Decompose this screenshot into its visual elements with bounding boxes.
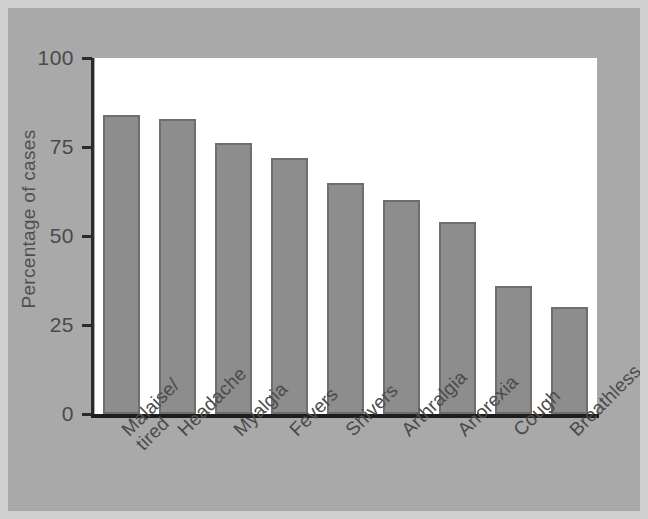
y-axis-tick	[82, 413, 92, 416]
y-axis-line	[91, 58, 94, 418]
bar	[103, 115, 140, 414]
y-axis-tick-label: 100	[14, 47, 74, 68]
y-axis-tick	[82, 324, 92, 327]
bar	[159, 119, 196, 414]
y-axis-tick-label: 0	[14, 403, 74, 424]
y-axis-tick	[82, 146, 92, 149]
bar	[271, 158, 308, 414]
y-axis-tick	[82, 57, 92, 60]
y-axis-tick	[82, 235, 92, 238]
chart-card: 0255075100 Percentage of cases Malaise/ …	[8, 8, 640, 511]
figure: 0255075100 Percentage of cases Malaise/ …	[0, 0, 648, 519]
y-axis-title: Percentage of cases	[18, 119, 40, 319]
bar	[327, 183, 364, 414]
